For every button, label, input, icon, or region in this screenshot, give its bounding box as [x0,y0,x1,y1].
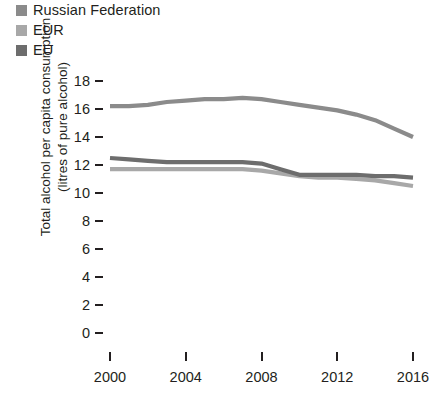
alcohol-consumption-line-chart: Russian Federation EUR EU Total alcohol … [0,0,441,410]
plot-area: Total alcohol per capita consumption (li… [0,0,441,410]
series-layer [0,0,441,410]
series-line-russian-federation [110,98,413,137]
